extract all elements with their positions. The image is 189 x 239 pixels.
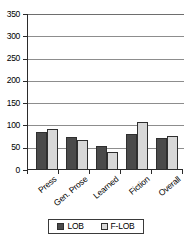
bar-press-flob	[47, 129, 58, 170]
bar-group-learned	[94, 14, 122, 170]
y-tick-label-300: 300	[0, 32, 20, 41]
plot-area	[27, 14, 183, 170]
bar-group-fiction	[124, 14, 152, 170]
bar-group-overall	[154, 14, 182, 170]
bar-group-press	[34, 14, 62, 170]
legend-swatch-lob	[57, 223, 64, 230]
y-tick-label-50: 50	[0, 143, 20, 152]
legend-item-flob: F-LOB	[101, 222, 135, 231]
bar-fiction-flob	[137, 122, 148, 170]
legend-item-lob: LOB	[57, 222, 83, 231]
bar-fiction-lob	[126, 134, 137, 170]
bar-chart: 350 300 250 200 150 100 50 0 Press Gen. …	[0, 0, 189, 239]
x-tick-labels: Press Gen. Prose Learned Fiction Overall	[0, 174, 189, 210]
bar-group-gen-prose	[64, 14, 92, 170]
legend-label-lob: LOB	[67, 222, 83, 231]
y-tick-label-250: 250	[0, 54, 20, 63]
bar-groups	[28, 14, 184, 170]
bar-learned-flob	[107, 152, 118, 170]
y-tick-label-200: 200	[0, 76, 20, 85]
bar-learned-lob	[96, 146, 107, 170]
bar-overall-lob	[156, 138, 167, 170]
legend-swatch-flob	[101, 223, 108, 230]
bar-gen-prose-flob	[77, 140, 88, 170]
y-tick-label-350: 350	[0, 10, 20, 19]
y-tick-label-100: 100	[0, 121, 20, 130]
y-tick-label-150: 150	[0, 99, 20, 108]
chart-legend: LOB F-LOB	[48, 219, 144, 234]
bar-gen-prose-lob	[66, 137, 77, 170]
legend-label-flob: F-LOB	[111, 222, 135, 231]
bar-press-lob	[36, 132, 47, 170]
bar-overall-flob	[167, 136, 178, 170]
